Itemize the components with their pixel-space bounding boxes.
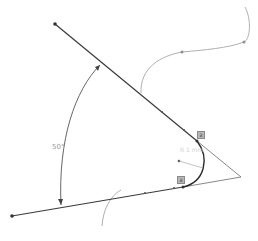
sketch-canvas[interactable] bbox=[0, 0, 258, 241]
endpoint[interactable] bbox=[53, 22, 57, 26]
arrowhead-icon bbox=[58, 199, 63, 205]
endpoint[interactable] bbox=[10, 214, 14, 218]
fillet-endpoint[interactable] bbox=[182, 186, 185, 189]
midpoint-marker bbox=[173, 187, 175, 189]
spline-bottom[interactable] bbox=[102, 190, 121, 226]
radius-dimension-label[interactable]: R 1 mm bbox=[180, 146, 204, 153]
midpoint-marker bbox=[183, 129, 185, 131]
upper-line[interactable] bbox=[55, 24, 197, 141]
lower-line[interactable] bbox=[12, 187, 183, 216]
midpoint-marker bbox=[144, 192, 146, 194]
spline-point[interactable] bbox=[243, 41, 246, 44]
midpoint-marker bbox=[161, 111, 163, 113]
angle-dimension-label[interactable]: 50° bbox=[52, 143, 64, 151]
lower-line-extension bbox=[183, 177, 241, 187]
spline-top[interactable] bbox=[141, 7, 249, 93]
radius-leader bbox=[179, 161, 203, 168]
fillet-endpoint[interactable] bbox=[196, 140, 199, 143]
angle-dimension-arc[interactable] bbox=[61, 65, 100, 205]
tangent-constraint-icon[interactable]: ƨ bbox=[177, 176, 185, 184]
tangent-constraint-icon[interactable]: ƨ bbox=[197, 131, 205, 139]
spline-point[interactable] bbox=[181, 51, 184, 54]
